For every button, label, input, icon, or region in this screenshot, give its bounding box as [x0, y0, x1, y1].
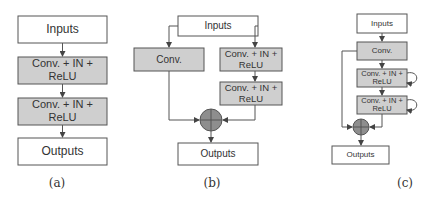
arrow-main-to-sum — [223, 105, 255, 120]
block-label-line2: ReLU — [48, 70, 76, 82]
caption-b: (b) — [203, 176, 220, 190]
caption-c: (c) — [397, 176, 413, 190]
sum-node — [200, 109, 222, 131]
arrow-main-to-sum — [370, 114, 382, 127]
inputs-label: Inputs — [46, 22, 79, 36]
outputs-label: Outputs — [346, 150, 374, 159]
block-label-line2: ReLU — [48, 111, 76, 123]
panel-c: Inputs Conv. Conv. + IN + ReLU Conv. + I… — [332, 14, 417, 190]
sum-node — [353, 119, 369, 135]
arrow-to-shortcut — [169, 26, 178, 47]
caption-a: (a) — [49, 176, 66, 190]
arrow-shortcut-to-sum — [169, 71, 199, 120]
block-label-line2: ReLU — [239, 93, 263, 104]
outputs-label: Outputs — [41, 144, 83, 158]
block-label-line2: ReLU — [372, 77, 391, 86]
arrow-skip-to-sum — [342, 51, 357, 127]
recurrent-loop-arrow — [407, 100, 417, 111]
block-label-line1: Conv. + IN + — [225, 48, 278, 59]
block-label-line1: Conv. + IN + — [225, 82, 278, 93]
inputs-label: Inputs — [204, 20, 231, 31]
conv-label: Conv. — [372, 46, 392, 55]
architecture-diagram: Inputs Conv. + IN + ReLU Conv. + IN + Re… — [0, 0, 445, 201]
outputs-label: Outputs — [200, 148, 235, 159]
recurrent-loop-arrow — [407, 73, 417, 84]
block-label-line1: Conv. + IN + — [32, 98, 93, 110]
inputs-label: Inputs — [371, 19, 393, 28]
panel-a: Inputs Conv. + IN + ReLU Conv. + IN + Re… — [18, 16, 107, 190]
shortcut-conv-label: Conv. — [156, 54, 181, 65]
block-label-line2: ReLU — [239, 59, 263, 70]
block-label-line2: ReLU — [372, 104, 391, 113]
block-label-line1: Conv. + IN + — [32, 57, 93, 69]
panel-b: Inputs Conv. Conv. + IN + ReLU Conv. + I… — [134, 16, 282, 190]
